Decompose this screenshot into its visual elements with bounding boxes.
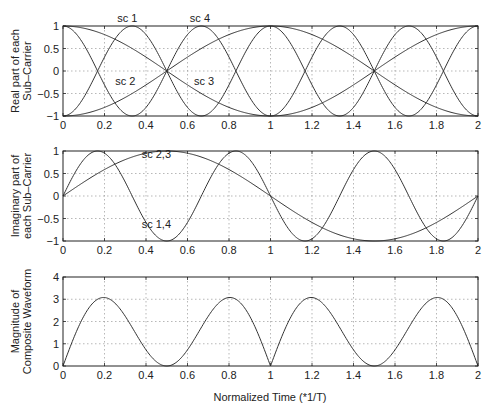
x-tick-label: 1.8 xyxy=(429,244,444,256)
x-tick-label: 1.4 xyxy=(346,119,361,131)
composite-magnitude-plot: 00.20.40.60.811.21.41.61.8243210Magnitud… xyxy=(9,269,481,381)
x-tick-label: 1.8 xyxy=(429,119,444,131)
y-tick-label: 0 xyxy=(53,360,59,372)
y-tick-label: −0.5 xyxy=(37,88,59,100)
x-tick-label: 0.2 xyxy=(97,244,112,256)
imaginary-part-plot: 00.20.40.60.811.21.41.61.8210.50−0.5−1sc… xyxy=(9,145,481,256)
x-tick-label: 0.4 xyxy=(138,119,153,131)
x-tick-label: 2 xyxy=(475,244,481,256)
x-tick-label: 1.2 xyxy=(304,119,319,131)
y-axis-label: Composite Waveform xyxy=(21,269,33,374)
y-tick-label: −1 xyxy=(46,110,59,122)
y-tick-label: 1 xyxy=(53,338,59,350)
x-tick-label: 1.6 xyxy=(387,119,402,131)
x-tick-label: 1.4 xyxy=(346,369,361,381)
x-tick-label: 0.6 xyxy=(180,119,195,131)
x-tick-label: 1 xyxy=(267,119,273,131)
x-tick-label: 0 xyxy=(60,369,66,381)
series-annotation: sc 1,4 xyxy=(142,218,171,230)
y-axis-label: Sub–Carrier xyxy=(21,41,33,101)
y-axis-label: Real part of each xyxy=(9,29,21,113)
x-tick-label: 1 xyxy=(267,369,273,381)
y-axis-label: Imaginary part of xyxy=(9,154,21,237)
y-tick-label: 0.5 xyxy=(44,43,59,55)
series-annotation: sc 4 xyxy=(190,12,210,24)
x-tick-label: 0.2 xyxy=(97,369,112,381)
y-tick-label: −1 xyxy=(46,235,59,247)
x-tick-label: 0.8 xyxy=(221,244,236,256)
x-tick-label: 0.4 xyxy=(138,369,153,381)
x-tick-label: 1.2 xyxy=(304,369,319,381)
x-tick-label: 2 xyxy=(475,369,481,381)
x-tick-label: 0.6 xyxy=(180,369,195,381)
y-tick-label: 0.5 xyxy=(44,168,59,180)
y-axis-label: Magnitude of xyxy=(9,289,21,354)
x-tick-label: 1 xyxy=(267,244,273,256)
real-part-plot: 00.20.40.60.811.21.41.61.8210.50−0.5−1sc… xyxy=(9,12,481,131)
y-tick-label: 0 xyxy=(53,190,59,202)
ofdm-subcarrier-chart: 00.20.40.60.811.21.41.61.8210.50−0.5−1sc… xyxy=(0,0,489,411)
y-tick-label: 1 xyxy=(53,145,59,157)
x-tick-label: 0.8 xyxy=(221,369,236,381)
x-tick-label: 0.2 xyxy=(97,119,112,131)
series-annotation: sc 2 xyxy=(115,75,135,87)
x-tick-label: 0 xyxy=(60,244,66,256)
x-tick-label: 0 xyxy=(60,119,66,131)
y-tick-label: 3 xyxy=(53,293,59,305)
y-tick-label: −0.5 xyxy=(37,213,59,225)
series-annotation: sc 3 xyxy=(194,75,214,87)
x-tick-label: 1.6 xyxy=(387,244,402,256)
y-tick-label: 1 xyxy=(53,20,59,32)
x-axis-label: Normalized Time (*1/T) xyxy=(213,391,326,403)
series-line-composite-magnitude xyxy=(63,297,478,366)
y-tick-label: 4 xyxy=(53,271,59,283)
x-tick-label: 0.4 xyxy=(138,244,153,256)
y-axis-label: each Sub–Carrier xyxy=(21,153,33,240)
x-tick-label: 1.8 xyxy=(429,369,444,381)
x-tick-label: 1.4 xyxy=(346,244,361,256)
x-tick-label: 0.8 xyxy=(221,119,236,131)
x-tick-label: 1.2 xyxy=(304,244,319,256)
y-tick-label: 2 xyxy=(53,316,59,328)
series-annotation: sc 1 xyxy=(117,12,137,24)
y-tick-label: 0 xyxy=(53,65,59,77)
series-annotation: sc 2,3 xyxy=(142,148,171,160)
x-tick-label: 0.6 xyxy=(180,244,195,256)
x-tick-label: 2 xyxy=(475,119,481,131)
x-tick-label: 1.6 xyxy=(387,369,402,381)
